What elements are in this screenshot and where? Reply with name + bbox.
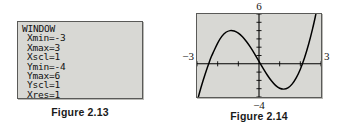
graph-ymax-label: 6: [196, 0, 322, 12]
plot-group: [197, 14, 321, 97]
figure-2-13: WINDOW Xmin=-3 Xmax=3 Xscl=1 Ymin=-4 Yma…: [0, 0, 170, 131]
graph-xmax-label: 3: [324, 50, 339, 62]
figure-2-14: 6 −3 3 −4 Figure 2.14: [180, 0, 339, 131]
figure-pair-container: WINDOW Xmin=-3 Xmax=3 Xscl=1 Ymin=-4 Yma…: [0, 0, 339, 131]
figure-2-14-caption: Figure 2.14: [184, 110, 334, 122]
graph-plot-area: [197, 14, 321, 97]
cubic-curve: [197, 14, 316, 97]
window-setting-xres: Xres=1: [22, 90, 140, 99]
window-settings-list: WINDOW Xmin=-3 Xmax=3 Xscl=1 Ymin=-4 Yma…: [22, 24, 140, 99]
graph-xmin-label: −3: [180, 50, 194, 62]
figure-2-13-caption: Figure 2.13: [0, 106, 160, 118]
calculator-window-screen: WINDOW Xmin=-3 Xmax=3 Xscl=1 Ymin=-4 Yma…: [17, 21, 143, 99]
calculator-graph-screen: [196, 13, 322, 98]
